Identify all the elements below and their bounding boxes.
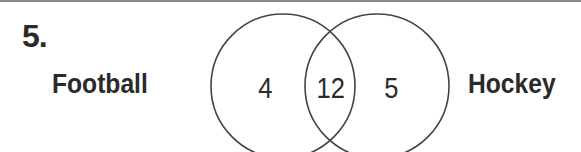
right-only-value: 5	[384, 71, 398, 105]
intersection-value: 12	[317, 71, 345, 105]
venn-circles	[0, 0, 581, 152]
venn-diagram-problem: 5. Football Hockey 4 12 5	[0, 0, 581, 152]
left-only-value: 4	[258, 71, 272, 105]
